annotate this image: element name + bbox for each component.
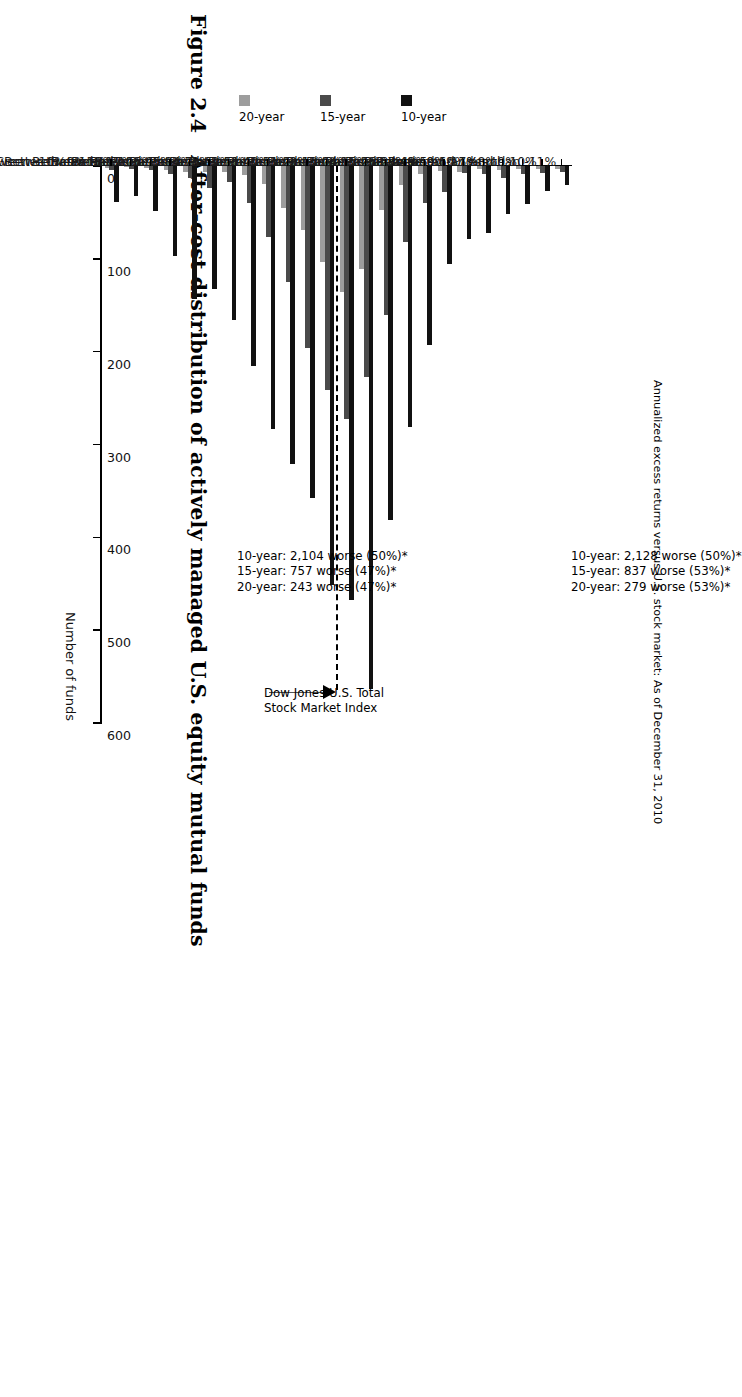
annotation-bottom: 10-year: 2,104 worse (50%)* 15-year: 757… xyxy=(237,549,408,595)
category-tick xyxy=(424,159,425,166)
category-label: Greater than 11% xyxy=(0,154,106,169)
legend-swatch xyxy=(239,95,250,106)
value-tick xyxy=(93,351,102,352)
category-tick xyxy=(346,159,347,166)
category-tick xyxy=(463,159,464,166)
value-tick-label: 400 xyxy=(107,542,131,557)
bar xyxy=(423,166,428,203)
bar xyxy=(212,166,217,289)
value-axis-title: Number of funds xyxy=(63,612,78,721)
category-tick xyxy=(267,159,268,166)
value-tick xyxy=(93,537,102,538)
bar xyxy=(506,166,511,214)
benchmark-label-line1: Dow Jones U.S. Total xyxy=(264,686,414,701)
bar xyxy=(207,166,212,188)
category-tick xyxy=(130,159,131,166)
bar xyxy=(388,166,393,520)
legend-label: 10-year xyxy=(401,110,446,124)
bar xyxy=(349,166,354,600)
category-tick xyxy=(483,159,484,166)
bar xyxy=(330,166,335,585)
value-tick xyxy=(93,258,102,259)
bar xyxy=(379,166,384,210)
category-tick xyxy=(541,159,542,166)
bar xyxy=(310,166,315,498)
bar xyxy=(305,166,310,348)
bar xyxy=(340,166,345,292)
bar xyxy=(384,166,389,315)
value-tick xyxy=(93,629,102,630)
value-tick-label: 500 xyxy=(107,635,131,650)
annotation-bottom-20yr: 20-year: 243 worse (47%)* xyxy=(237,580,408,595)
bar xyxy=(153,166,158,211)
value-tick-label: 200 xyxy=(107,357,131,372)
bar xyxy=(442,166,447,192)
annotation-bottom-15yr: 15-year: 757 worse (47%)* xyxy=(237,564,408,579)
benchmark-dashed-line xyxy=(336,166,338,690)
category-tick xyxy=(522,159,523,166)
annotation-top-20yr: 20-year: 279 worse (53%)* xyxy=(571,580,742,595)
bar xyxy=(467,166,472,239)
value-tick-label: 300 xyxy=(107,450,131,465)
category-tick xyxy=(326,159,327,166)
bar xyxy=(325,166,330,390)
category-tick xyxy=(228,159,229,166)
bar xyxy=(565,166,570,185)
category-tick xyxy=(189,159,190,166)
value-tick-label: 100 xyxy=(107,264,131,279)
bar xyxy=(251,166,256,366)
category-tick xyxy=(150,159,151,166)
category-tick xyxy=(365,159,366,166)
value-tick-label: 600 xyxy=(107,728,131,743)
category-tick xyxy=(287,159,288,166)
bar xyxy=(403,166,408,242)
bar xyxy=(301,166,306,230)
bar xyxy=(247,166,252,203)
category-tick xyxy=(306,159,307,166)
bar xyxy=(271,166,276,429)
category-tick xyxy=(208,159,209,166)
value-tick xyxy=(93,722,102,723)
legend-swatch xyxy=(320,95,331,106)
bar xyxy=(114,166,119,202)
bar xyxy=(364,166,369,377)
bar xyxy=(320,166,325,262)
annotation-top-15yr: 15-year: 837 worse (53%)* xyxy=(571,564,742,579)
category-tick xyxy=(561,159,562,166)
bar xyxy=(134,166,139,196)
legend-label: 20-year xyxy=(239,110,284,124)
bar xyxy=(345,166,350,419)
annotation-top: 10-year: 2,128 worse (50%)* 15-year: 837… xyxy=(571,549,742,595)
bar xyxy=(427,166,432,345)
category-tick xyxy=(385,159,386,166)
legend-swatch xyxy=(401,95,412,106)
bar xyxy=(408,166,413,427)
bar xyxy=(173,166,178,256)
bar xyxy=(286,166,291,282)
annotation-bottom-10yr: 10-year: 2,104 worse (50%)* xyxy=(237,549,408,564)
bar xyxy=(486,166,491,233)
category-tick xyxy=(443,159,444,166)
category-tick xyxy=(169,159,170,166)
annotation-top-10yr: 10-year: 2,128 worse (50%)* xyxy=(571,549,742,564)
bar xyxy=(266,166,271,237)
benchmark-label-line2: Stock Market Index xyxy=(264,701,414,716)
category-tick xyxy=(248,159,249,166)
bar xyxy=(232,166,237,320)
bar xyxy=(192,166,197,299)
category-tick xyxy=(502,159,503,166)
bar xyxy=(525,166,530,204)
bar xyxy=(545,166,550,191)
bar xyxy=(290,166,295,464)
benchmark-label: Dow Jones U.S. Total Stock Market Index xyxy=(264,686,414,715)
bar xyxy=(447,166,452,264)
figure-subtitle: Annualized excess returns versus U.S. st… xyxy=(651,380,664,824)
bar xyxy=(369,166,374,689)
bar xyxy=(359,166,364,269)
legend-label: 15-year xyxy=(320,110,365,124)
bar xyxy=(281,166,286,208)
value-tick xyxy=(93,444,102,445)
category-tick xyxy=(404,159,405,166)
